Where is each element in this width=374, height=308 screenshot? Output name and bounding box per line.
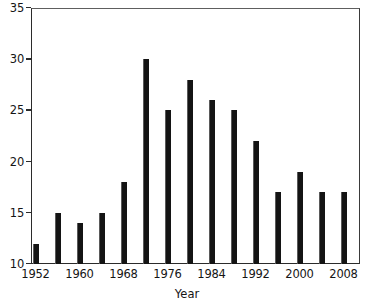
y-tick-label: 25 — [10, 102, 24, 118]
x-axis-title: Year — [0, 286, 374, 302]
y-tick-label: 15 — [10, 205, 24, 221]
y-tick-mark — [26, 109, 31, 110]
x-axis: 19521960196819761984199220002008 — [0, 266, 374, 286]
bar[interactable] — [319, 192, 325, 264]
bar[interactable] — [165, 110, 171, 264]
bar[interactable] — [341, 192, 347, 264]
bar[interactable] — [231, 110, 237, 264]
x-tick-label: 1976 — [153, 266, 181, 282]
bar[interactable] — [209, 100, 215, 264]
x-tick-label: 2000 — [285, 266, 313, 282]
x-tick-label: 1992 — [241, 266, 269, 282]
x-tick-label: 1960 — [65, 266, 93, 282]
x-tick-label: 1952 — [21, 266, 49, 282]
bar[interactable] — [187, 80, 193, 264]
y-tick-label: 35 — [10, 0, 24, 16]
y-tick-mark — [26, 58, 31, 59]
bar[interactable] — [143, 59, 149, 264]
y-tick-label: 20 — [10, 154, 24, 170]
y-tick-mark — [26, 263, 31, 264]
bar-chart: 101520253035 195219601968197619841992200… — [0, 0, 374, 308]
y-tick-mark — [26, 161, 31, 162]
bar[interactable] — [121, 182, 127, 264]
bar[interactable] — [297, 172, 303, 264]
bar[interactable] — [99, 213, 105, 264]
x-tick-label: 1968 — [109, 266, 137, 282]
y-tick-mark — [26, 7, 31, 8]
y-axis: 101520253035 — [0, 0, 31, 308]
bar[interactable] — [33, 244, 39, 264]
y-tick-mark — [26, 212, 31, 213]
x-tick-label: 2008 — [329, 266, 357, 282]
x-tick-label: 1984 — [197, 266, 225, 282]
bar[interactable] — [253, 141, 259, 264]
y-tick-label: 30 — [10, 51, 24, 67]
bar[interactable] — [77, 223, 83, 264]
bar[interactable] — [275, 192, 281, 264]
bar[interactable] — [55, 213, 61, 264]
